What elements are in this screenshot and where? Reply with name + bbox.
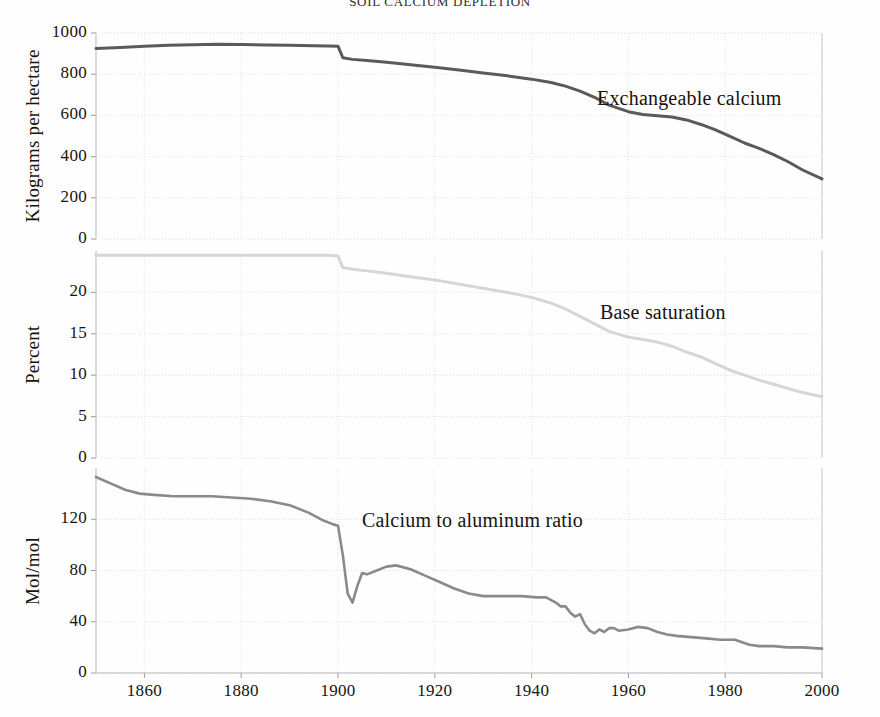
y-tick-label: 40 (69, 611, 87, 631)
y-tick-label: 0 (78, 662, 87, 682)
series-label-calcium-to-aluminum-ratio: Calcium to aluminum ratio (362, 509, 583, 532)
y-tick-label: 15 (69, 323, 87, 343)
x-tick-label: 1980 (685, 681, 765, 701)
y-tick-label: 600 (61, 104, 87, 124)
x-tick-label: 1860 (104, 681, 184, 701)
y-tick-label: 200 (61, 187, 87, 207)
series-label-base-saturation: Base saturation (600, 301, 726, 324)
y-tick-label: 0 (78, 228, 87, 248)
data-series-exchangeable-calcium (96, 44, 822, 179)
y-tick-label: 1000 (52, 22, 87, 42)
y-tick-label: 0 (78, 447, 87, 467)
y-tick-label: 10 (69, 364, 87, 384)
x-tick-label: 1880 (201, 681, 281, 701)
x-tick-label: 1960 (588, 681, 668, 701)
series-label-exchangeable-calcium: Exchangeable calcium (597, 87, 781, 110)
y-axis-label-mol-per-mol: Mol/mol (22, 537, 44, 605)
x-tick-label: 2000 (782, 681, 862, 701)
y-tick-label: 5 (78, 406, 87, 426)
y-tick-label: 80 (69, 560, 87, 580)
data-series-calcium-to-aluminum-ratio (96, 477, 822, 649)
y-axis-label-percent: Percent (22, 325, 44, 383)
y-tick-label: 400 (61, 146, 87, 166)
x-tick-label: 1900 (298, 681, 378, 701)
y-tick-label: 800 (61, 63, 87, 83)
chart-figure: SOIL CALCIUM DEPLETION Kilograms per hec… (0, 0, 880, 717)
y-tick-label: 20 (69, 281, 87, 301)
y-tick-label: 120 (61, 508, 87, 528)
x-tick-label: 1920 (395, 681, 475, 701)
x-tick-label: 1940 (492, 681, 572, 701)
y-axis-label-kilograms-per-hectare: Kilograms per hectare (22, 49, 44, 222)
